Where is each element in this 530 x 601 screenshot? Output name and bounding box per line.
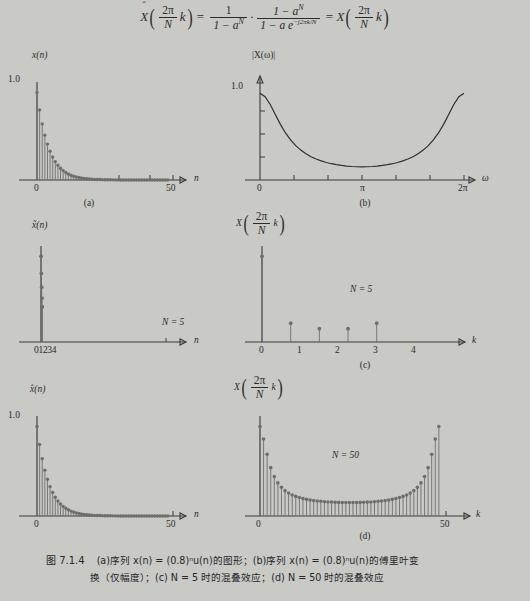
panel-d-right-ylabel-frac: 2πN [251, 374, 269, 401]
panel-c-subcaption: (c) [350, 360, 380, 370]
panel-c-left-ylabel: x̃(n) [32, 220, 47, 230]
panel-c-right-xtick-1: 1 [297, 345, 302, 355]
figure-number: 图 7.1.4 [46, 555, 85, 566]
panel-d-right-xtick-50: 50 [440, 519, 450, 529]
panel-a-stems [35, 91, 169, 182]
hat-accent-icon: ˆ [143, 0, 146, 11]
panel-c-left-stems [39, 254, 44, 342]
panel-b-xlabel: ω [482, 173, 489, 183]
panel-a-subcaption: (a) [74, 198, 104, 208]
panel-a-plot [14, 62, 204, 192]
panel-d-left-ylabel: x̂(n) [30, 384, 45, 394]
panel-b-curve [260, 93, 464, 167]
panel-d-left-plot [14, 398, 204, 528]
panel-c-left-note: N = 5 [162, 317, 184, 327]
panel-c-right-ylabel-den: N [253, 223, 271, 237]
panel-c-right-ylabel-var: k [273, 218, 277, 228]
formula-cdot: · [250, 9, 254, 24]
formula-f2-num-text: 1 − a [273, 5, 298, 17]
panel-d-right-ylabel-fn: X [234, 382, 240, 392]
panel-c-right-xtick-3: 3 [373, 345, 378, 355]
formula-f2-den-sup: −j2πk/N [293, 18, 316, 26]
panel-a-ytick-1: 1.0 [8, 74, 20, 84]
panel-d-left-xlabel: n [194, 509, 199, 519]
panel-d-right-ylabel-var: k [271, 382, 275, 392]
panel-c-right-xlabel: k [472, 335, 476, 345]
panel-a-ylabel: x(n) [32, 50, 47, 60]
formula-lhs-fn: X [140, 9, 148, 24]
panel-d-right-open-paren: ( [241, 380, 246, 395]
formula-rhs-arg: 2πN [355, 4, 373, 31]
formula-equals-2: = [326, 9, 333, 24]
panel-b: |X(ω)| 1.0 0 π 2π ω (b) [240, 62, 490, 192]
panel-d-left-stems [35, 425, 169, 518]
display-formula: ˆX(2πNk) = 11 − aN·1 − aN1 − a e−j2πk/N … [0, 4, 530, 32]
panel-c-left-axes [19, 246, 186, 345]
formula-equals-1: = [197, 9, 204, 24]
panel-d-right-ylabel-num: 2π [251, 374, 269, 387]
formula-f2-den-text: 1 − a e [260, 19, 293, 31]
panel-c-left-xticks: 01234 [34, 345, 56, 355]
panel-d-left-ytick-1: 1.0 [8, 410, 20, 420]
formula-lhs-arg-var: k [180, 9, 186, 24]
panel-c-right-ylabel-frac: 2πN [253, 210, 271, 237]
formula-fraction-2: 1 − aN1 − a e−j2πk/N [257, 4, 319, 32]
panel-d-right-ylabel: X(2πNk) [234, 374, 284, 401]
panel-c-right-plot [240, 232, 490, 357]
formula-f2-num: 1 − aN [257, 4, 319, 18]
panel-c-right-xtick-0: 0 [259, 345, 264, 355]
formula-rhs-arg-num: 2π [355, 4, 373, 17]
panel-c-right-close-paren: ) [279, 216, 284, 231]
panel-d-right-ylabel-den: N [251, 387, 269, 401]
panel-b-xtick-2pi: 2π [458, 183, 468, 193]
formula-rhs-fn: X [336, 9, 344, 24]
panel-d-right-close-paren: ) [277, 380, 282, 395]
panel-b-xtick-0: 0 [257, 183, 262, 193]
panel-d-left-xtick-50: 50 [166, 519, 176, 529]
formula-lhs-arg-den: N [159, 17, 177, 31]
close-paren-1: ) [187, 10, 192, 25]
formula-rhs-arg-var: k [376, 9, 382, 24]
panel-c-right-axes [245, 246, 465, 345]
panel-c-right: X(2πNk) 0 1 2 3 4 k N = 5 (c) [240, 232, 490, 357]
formula-f1-den-text: 1 − a [213, 19, 238, 31]
formula-rhs-arg-den: N [355, 17, 373, 31]
panel-a-xtick-0: 0 [34, 183, 39, 193]
panel-b-plot [240, 62, 490, 192]
panel-d-left-xtick-0: 0 [34, 519, 39, 529]
panel-a-xlabel: n [194, 173, 199, 183]
panel-d-left: x̂(n) 1.0 0 50 n [14, 398, 204, 528]
figure-page: ˆX(2πNk) = 11 − aN·1 − aN1 − a e−j2πk/N … [0, 0, 530, 601]
panel-c-right-ylabel-fn: X [236, 218, 242, 228]
formula-lhs-arg: 2πN [159, 4, 177, 31]
formula-f1-den-sup: N [238, 17, 243, 26]
panel-c-right-xtick-2: 2 [335, 345, 340, 355]
panel-a: x(n) 1.0 0 50 n (a) [14, 62, 204, 192]
panel-b-ylabel: |X(ω)| [252, 50, 275, 60]
panel-d-right: X(2πNk) 0 50 k N = 50 (d) [240, 398, 490, 528]
formula-f1-den: 1 − aN [210, 17, 246, 32]
panel-c-left: x̃(n) 01234 n N = 5 [14, 232, 204, 357]
panel-d-right-xtick-0: 0 [256, 519, 261, 529]
panel-c-right-stems [260, 254, 379, 342]
panel-d-right-stems [258, 425, 440, 516]
formula-f1-num: 1 [210, 4, 246, 17]
panel-c-right-xtick-4: 4 [411, 345, 416, 355]
panel-c-right-ylabel: X(2πNk) [236, 210, 286, 237]
formula-f2-num-sup: N [298, 3, 303, 12]
panel-a-axes [19, 82, 186, 183]
panel-c-left-plot [14, 232, 204, 357]
panel-c-left-xlabel: n [194, 335, 199, 345]
panel-d-right-note: N = 50 [332, 450, 359, 460]
panel-d-subcaption: (d) [350, 531, 380, 541]
formula-f2-den: 1 − a e−j2πk/N [257, 18, 319, 32]
formula-lhs-hat-wrap: ˆX [140, 9, 148, 25]
panel-b-subcaption: (b) [350, 198, 380, 208]
open-paren-2: ( [346, 10, 351, 25]
panel-a-xtick-50: 50 [166, 183, 176, 193]
panel-d-left-axes [19, 416, 186, 519]
panel-b-xtick-pi: π [360, 183, 365, 193]
caption-line-2: 换（仅幅度）；(c) N = 5 时的混叠效应；(d) N = 50 时的混叠效… [46, 570, 504, 586]
figure-caption: 图 7.1.4(a)序列 x(n) = (0.8)ⁿu(n)的图形；(b)序列 … [46, 553, 504, 586]
open-paren-1: ( [150, 10, 155, 25]
